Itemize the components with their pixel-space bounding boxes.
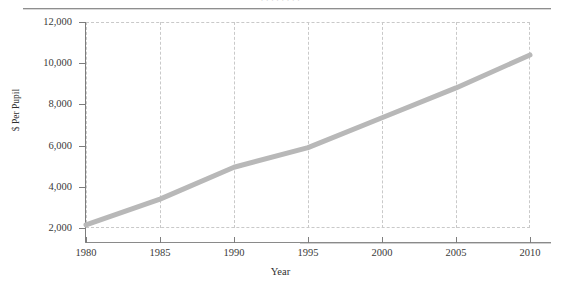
y-tick-label: 10,000 [6,57,72,68]
caption-remnant-text: . . . . . . . . [0,0,561,2]
x-axis-line-shadow [300,243,551,244]
top-horizontal-rule-shadow [23,9,551,10]
y-tick-label-wrap: 12,000 [0,16,72,27]
x-tick-mark [308,237,309,243]
y-tick-label: 12,000 [6,16,72,27]
y-tick-label-wrap: 8,000 [0,98,72,109]
x-tick-label: 2010 [500,247,560,259]
y-axis-title: $ Per Pupil [11,70,21,150]
x-tick-mark [530,237,531,243]
chart-figure: . . . . . . . . $ Per Pupil 12,00010,000… [0,0,561,289]
plot-area [86,22,530,228]
x-tick-mark [160,237,161,243]
x-tick-label: 1995 [278,247,338,259]
x-tick-label: 1980 [56,247,116,259]
y-tick-label: 4,000 [6,181,72,192]
x-tick-mark [382,237,383,243]
x-tick-mark [86,237,87,243]
y-tick-label: 2,000 [6,222,72,233]
data-series-line [86,22,530,228]
x-tick-mark [234,237,235,243]
y-tick-label: 6,000 [6,140,72,151]
y-tick-label-wrap: 10,000 [0,57,72,68]
y-tick-label-wrap: 6,000 [0,140,72,151]
x-axis-title: Year [0,266,561,277]
x-tick-label: 1990 [204,247,264,259]
x-tick-mark [456,237,457,243]
y-tick-label-wrap: 2,000 [0,222,72,233]
y-tick-label: 8,000 [6,98,72,109]
x-tick-label: 1985 [130,247,190,259]
x-tick-label: 2000 [352,247,412,259]
x-tick-label: 2005 [426,247,486,259]
y-tick-label-wrap: 4,000 [0,181,72,192]
series-polyline [86,55,530,225]
